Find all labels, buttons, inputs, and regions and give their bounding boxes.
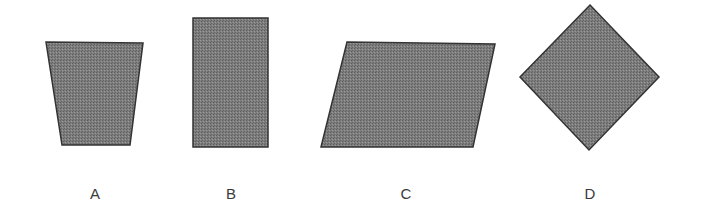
label-a: A [90, 186, 100, 201]
label-c: C [401, 186, 412, 201]
parallelogram-shape-c [321, 42, 495, 147]
rectangle-shape-b [193, 18, 268, 147]
diamond-shape-d [520, 5, 659, 150]
shapes-figure [0, 0, 701, 220]
label-d: D [585, 186, 596, 201]
trapezoid-shape-a [46, 42, 143, 145]
label-b: B [226, 186, 236, 201]
